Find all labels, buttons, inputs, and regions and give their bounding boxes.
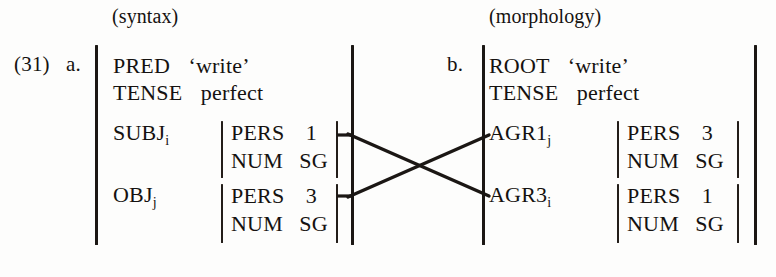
panel-a-pred-name: PRED	[113, 53, 170, 78]
agr1-feature-bracket-left	[617, 121, 619, 178]
subj-name: SUBJ	[113, 120, 165, 145]
morphology-header-label: (morphology)	[489, 6, 601, 26]
subj-num-feature: NUM SG	[231, 150, 328, 172]
panel-b-tense-name: TENSE	[489, 80, 558, 105]
agr3-feature-bracket-right	[737, 184, 739, 243]
obj-name: OBJ	[113, 182, 153, 207]
agr1-num-value: SG	[695, 148, 724, 173]
obj-num-value: SG	[299, 211, 328, 236]
panel-b-tense-value: perfect	[577, 80, 639, 105]
link-subj-to-agr3	[348, 134, 489, 196]
obj-function-label: OBJj	[113, 184, 157, 206]
panel-a-pred-attribute: PRED ‘write’	[113, 55, 250, 77]
agr1-pers-value: 3	[702, 120, 713, 145]
agr1-pers-name: PERS	[627, 120, 680, 145]
agr1-pers-feature: PERS 3	[627, 122, 713, 144]
subj-function-label: SUBJi	[113, 122, 169, 144]
panel-b-root-name: ROOT	[489, 53, 549, 78]
panel-a-tense-name: TENSE	[113, 80, 182, 105]
subj-pers-name: PERS	[231, 120, 284, 145]
agr3-num-feature: NUM SG	[627, 213, 724, 235]
agr3-index: i	[547, 195, 551, 210]
agr3-num-value: SG	[695, 211, 724, 236]
subj-feature-bracket-right	[336, 121, 338, 178]
obj-pers-feature: PERS 3	[231, 185, 317, 207]
subj-pers-value: 1	[306, 120, 317, 145]
subj-num-value: SG	[299, 148, 328, 173]
agr3-pers-value: 1	[702, 183, 713, 208]
panel-b-label: b.	[447, 54, 463, 75]
panel-a-outer-bracket-right	[351, 45, 354, 245]
subj-num-name: NUM	[231, 148, 283, 173]
panel-b-root-attribute: ROOT ‘write’	[489, 55, 629, 77]
agr1-index: j	[547, 133, 551, 148]
panel-a-tense-attribute: TENSE perfect	[113, 82, 263, 104]
panel-a-tense-value: perfect	[201, 80, 263, 105]
syntax-header-label: (syntax)	[112, 6, 178, 26]
agr3-feature-bracket-left	[617, 184, 619, 243]
agr3-function-label: AGR3i	[489, 184, 551, 206]
obj-pers-name: PERS	[231, 183, 284, 208]
panel-a-outer-bracket-left	[95, 45, 98, 245]
agr1-name: AGR1	[489, 120, 547, 145]
obj-feature-bracket-left	[221, 184, 223, 243]
obj-index: j	[153, 195, 157, 210]
agr1-num-feature: NUM SG	[627, 150, 724, 172]
agr3-pers-feature: PERS 1	[627, 185, 713, 207]
panel-b-tense-attribute: TENSE perfect	[489, 82, 639, 104]
subj-feature-bracket-left	[221, 121, 223, 178]
subj-pers-feature: PERS 1	[231, 122, 317, 144]
subj-index: i	[165, 133, 169, 148]
panel-b-outer-bracket-right	[754, 45, 757, 245]
obj-num-name: NUM	[231, 211, 283, 236]
agr1-function-label: AGR1j	[489, 122, 551, 144]
panel-a-label: a.	[66, 54, 81, 75]
agr3-pers-name: PERS	[627, 183, 680, 208]
link-obj-to-agr1	[348, 135, 489, 197]
figure-canvas: (syntax) (morphology) (31) a. PRED ‘writ…	[0, 0, 776, 277]
panel-a-pred-value: ‘write’	[188, 53, 249, 78]
panel-b-root-value: ‘write’	[568, 53, 629, 78]
agr1-num-name: NUM	[627, 148, 679, 173]
agr3-name: AGR3	[489, 182, 547, 207]
obj-pers-value: 3	[306, 183, 317, 208]
panel-b-outer-bracket-left	[482, 45, 485, 245]
obj-feature-bracket-right	[336, 184, 338, 243]
agr3-num-name: NUM	[627, 211, 679, 236]
obj-num-feature: NUM SG	[231, 213, 328, 235]
example-number: (31)	[14, 54, 50, 75]
agr1-feature-bracket-right	[737, 121, 739, 178]
